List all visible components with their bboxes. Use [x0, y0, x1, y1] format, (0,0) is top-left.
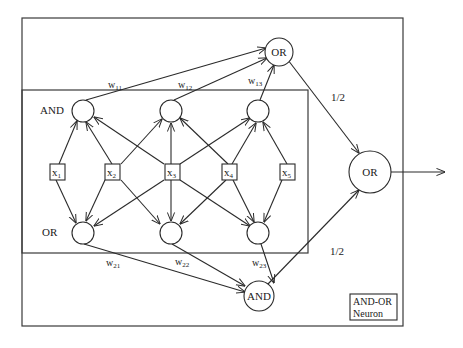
and-or-neuron-diagram: x1 x2 x3 x4 x5 AND OR OR AND OR w11 w12 …	[0, 0, 463, 348]
or-layer-label: OR	[42, 226, 58, 238]
bottom-and-label: AND	[247, 290, 271, 302]
and-to-top-or-edges	[86, 48, 274, 100]
top-or-label: OR	[271, 46, 287, 58]
legend-line-2: Neuron	[353, 308, 383, 319]
and-layer-label: AND	[40, 104, 64, 116]
output-weight-top: 1/2	[331, 91, 345, 103]
or-node-3	[247, 222, 269, 244]
weight-w21: w21	[106, 257, 121, 270]
bottom-and-to-output-edge	[268, 190, 359, 284]
and-node-2	[160, 100, 182, 122]
legend-line-1: AND-OR	[353, 296, 392, 307]
weight-w22: w22	[175, 256, 190, 269]
and-node-3	[247, 100, 269, 122]
top-or-to-output-edge	[288, 60, 359, 153]
input-to-and-edges	[59, 117, 287, 164]
and-node-1	[72, 100, 94, 122]
weight-w13: w13	[248, 75, 263, 88]
outer-frame	[22, 18, 403, 326]
input-to-or-edges	[56, 180, 282, 226]
output-or-label: OR	[362, 166, 378, 178]
or-node-2	[160, 222, 182, 244]
output-weight-bottom: 1/2	[330, 245, 344, 257]
weight-w23: w23	[252, 257, 267, 270]
or-node-1	[72, 222, 94, 244]
